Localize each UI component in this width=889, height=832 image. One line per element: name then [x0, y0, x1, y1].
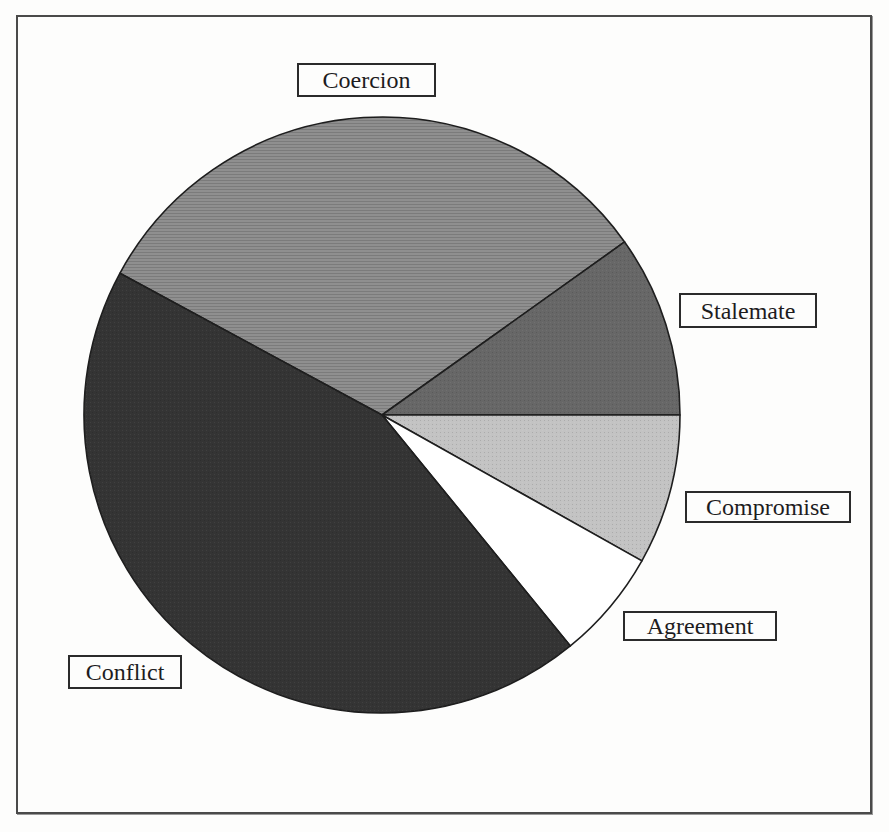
- slice-label-agreement-text: Agreement: [647, 614, 754, 638]
- slice-label-coercion-text: Coercion: [323, 68, 411, 92]
- pie-chart: [0, 0, 889, 832]
- slice-label-agreement: Agreement: [623, 611, 777, 641]
- slice-label-stalemate: Stalemate: [679, 293, 817, 328]
- slice-label-stalemate-text: Stalemate: [701, 299, 796, 323]
- slice-label-conflict: Conflict: [68, 655, 182, 689]
- pie-slices-group: [84, 117, 680, 713]
- slice-label-conflict-text: Conflict: [86, 660, 165, 684]
- figure-page: Coercion Stalemate Compromise Agreement …: [0, 0, 889, 832]
- slice-label-coercion: Coercion: [297, 63, 436, 97]
- slice-label-compromise: Compromise: [685, 491, 851, 523]
- slice-label-compromise-text: Compromise: [706, 495, 830, 519]
